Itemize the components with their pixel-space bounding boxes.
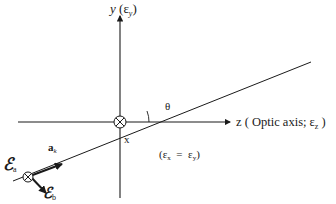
field-b-label: ℰb <box>43 186 56 202</box>
wave-vector-label: ak <box>48 142 57 155</box>
field-a-into-page-icon <box>23 172 33 182</box>
theta-arc <box>147 111 149 122</box>
wave-vector-arrow <box>30 164 62 176</box>
theta-label: θ <box>165 101 170 112</box>
uniaxial-condition-label: (εx = εy) <box>159 149 200 162</box>
z-axis-label: z ( Optic axis; εz ) <box>236 116 326 131</box>
y-axis-label: y (εy) <box>110 2 137 18</box>
x-axis-label: x <box>124 134 130 145</box>
field-a-label: ℰa <box>3 156 17 174</box>
origin-into-page-icon <box>114 116 126 128</box>
